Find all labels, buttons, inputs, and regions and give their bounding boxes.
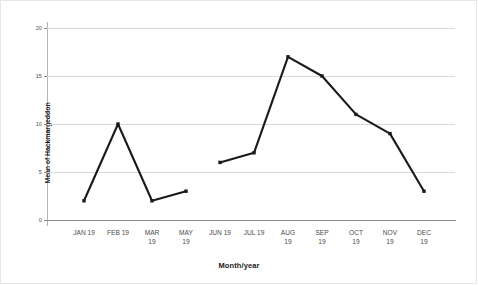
xtick-label-dec-19: DEC 19 <box>407 228 441 246</box>
xtick-label-sep-19: SEP 19 <box>305 228 339 246</box>
ytick-mark-0 <box>44 220 47 221</box>
xtick-label-feb-19: FEB 19 <box>101 228 135 237</box>
ytick-label-5: 5 <box>39 169 42 175</box>
xtick-label-nov-19: NOV 19 <box>373 228 407 246</box>
gridline-20: 20 <box>47 28 455 29</box>
ytick-mark-5 <box>44 172 47 173</box>
xtick-label-may-19: MAY 19 <box>169 228 203 246</box>
ytick-label-20: 20 <box>36 25 42 31</box>
gridline-5: 5 <box>47 172 455 173</box>
xtick-label-jul-19: JUL 19 <box>237 228 271 237</box>
ytick-label-0: 0 <box>39 217 42 223</box>
gridline-0: 0 <box>47 220 455 221</box>
x-axis-title: Month/year <box>0 261 478 270</box>
ytick-mark-10 <box>44 124 47 125</box>
gridline-15: 15 <box>47 76 455 77</box>
xtick-label-jan-19: JAN 19 <box>67 228 101 237</box>
ytick-label-15: 15 <box>36 73 42 79</box>
gridline-10: 10 <box>47 124 455 125</box>
xtick-label-oct-19: OCT 19 <box>339 228 373 246</box>
xtick-label-aug-19: AUG 19 <box>271 228 305 246</box>
ytick-mark-15 <box>44 76 47 77</box>
xtick-label-jun-19: JUN 19 <box>203 228 237 237</box>
line-chart-figure: Mean of Hackmargeddon 20 15 10 5 0 JAN 1… <box>0 0 478 285</box>
xtick-label-mar-19: MAR 19 <box>135 228 169 246</box>
plot-area: 20 15 10 5 0 <box>47 28 455 220</box>
ytick-label-10: 10 <box>36 121 42 127</box>
ytick-mark-20 <box>44 28 47 29</box>
